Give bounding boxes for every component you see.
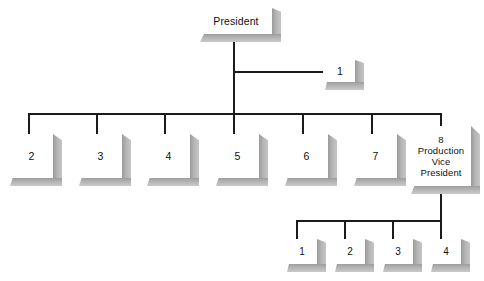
connector-president-trunk [233,42,235,114]
connector-bottom-drop-2 [344,220,346,240]
node-bottom-3[interactable]: 3 [383,239,413,264]
node-president-label: President [211,15,260,27]
connector-bottom-drop-1 [296,220,298,240]
connector-bottom-drop-4 [440,220,442,240]
node-main-4[interactable]: 4 [147,134,190,178]
node-bottom-2[interactable]: 2 [335,239,365,264]
node-bottom-1-label: 1 [297,246,307,258]
node-bottom-1[interactable]: 1 [287,239,317,264]
connector-drop-3 [96,113,98,135]
connector-drop-5 [233,113,235,135]
node-production-vice-president-label: 8 Production Vice President [416,134,466,179]
connector-bottom-drop-3 [392,220,394,240]
node-staff-1[interactable]: 1 [325,60,355,82]
node-main-6-label: 6 [302,150,312,162]
node-main-6[interactable]: 6 [285,134,328,178]
node-president[interactable]: President [200,8,272,34]
node-bottom-4[interactable]: 4 [431,239,461,264]
node-main-7[interactable]: 7 [354,134,397,178]
connector-bottom-bus [296,220,442,222]
node-main-2-label: 2 [27,150,37,162]
node-staff-1-label: 1 [335,65,345,77]
node-main-5[interactable]: 5 [216,134,259,178]
node-main-5-label: 5 [233,150,243,162]
node-main-3[interactable]: 3 [79,134,122,178]
org-chart: President 1 2 3 4 5 6 7 8 Production Vic… [0,0,484,281]
connector-drop-2 [28,113,30,135]
node-main-3-label: 3 [96,150,106,162]
connector-drop-8 [440,113,442,126]
connector-vp-trunk [440,194,442,221]
node-bottom-3-label: 3 [393,246,403,258]
node-main-7-label: 7 [371,150,381,162]
connector-drop-7 [371,113,373,135]
node-bottom-4-label: 4 [441,246,451,258]
connector-drop-4 [164,113,166,135]
node-main-4-label: 4 [164,150,174,162]
connector-drop-6 [302,113,304,135]
connector-staff-branch [233,71,323,73]
node-production-vice-president[interactable]: 8 Production Vice President [411,126,471,186]
node-main-2[interactable]: 2 [10,134,53,178]
node-bottom-2-label: 2 [345,246,355,258]
